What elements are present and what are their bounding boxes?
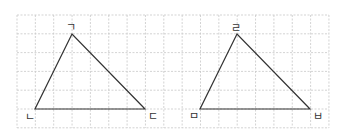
vertex-label: ㄴ — [25, 111, 35, 124]
dashed-grid — [17, 15, 329, 128]
triangles: ㄱㄴㄷㄹㅁㅂ — [25, 21, 323, 124]
vertex-label: ㅁ — [189, 110, 199, 123]
vertex-label: ㄹ — [231, 22, 241, 35]
vertex-label: ㅂ — [313, 110, 323, 123]
triangle-grid-diagram: ㄱㄴㄷㄹㅁㅂ — [0, 0, 344, 138]
vertex-label: ㄱ — [66, 21, 76, 34]
vertex-label: ㄷ — [148, 110, 158, 123]
